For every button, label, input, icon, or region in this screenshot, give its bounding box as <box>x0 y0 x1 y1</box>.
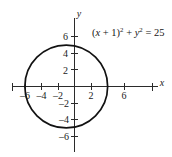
x-axis-label: x <box>159 77 165 88</box>
equation-plus-mid: + <box>124 27 135 38</box>
coordinate-plane: –6 –4 –2 2 6 6 4 2 –2 –4 –6 y x <box>0 0 172 157</box>
y-tick-label--6: –6 <box>58 131 69 142</box>
x-tick-label--4: –4 <box>36 90 47 101</box>
y-tick-label-4: 4 <box>63 48 68 59</box>
y-tick-label--4: –4 <box>58 114 69 125</box>
y-tick-label-2: 2 <box>63 65 68 76</box>
x-tick-label--6: –6 <box>19 90 30 101</box>
y-axis-label: y <box>76 8 82 19</box>
x-tick-label-6: 6 <box>122 90 127 101</box>
graph-figure: –6 –4 –2 2 6 6 4 2 –2 –4 –6 y x (x + 1)2… <box>0 0 172 157</box>
x-tick-label-2: 2 <box>89 90 94 101</box>
equation-equals-rhs: = 25 <box>143 27 165 38</box>
y-tick-label-6: 6 <box>63 31 68 42</box>
equation-plus-one: + 1 <box>100 27 116 38</box>
equation-annotation: (x + 1)2 + y2 = 25 <box>92 27 164 38</box>
y-tick-label--2: –2 <box>58 98 69 109</box>
